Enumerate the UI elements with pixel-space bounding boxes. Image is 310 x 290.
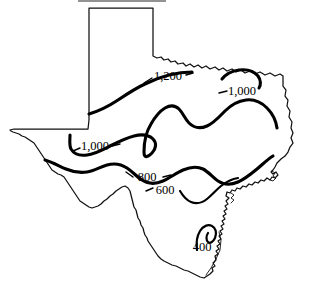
contour-map-figure: 1,200 1,000 1,000 800 600 400 <box>0 0 310 290</box>
cropped-caption-artifact <box>78 0 166 2</box>
texas-contour-map-svg: 1,200 1,000 1,000 800 600 400 <box>0 0 310 290</box>
contour-label-400: 400 <box>193 240 212 254</box>
contour-label-1000-west: 1,000 <box>81 139 109 153</box>
contour-label-800: 800 <box>138 170 157 184</box>
contour-label-1200: 1,200 <box>154 69 182 83</box>
texas-state-outline <box>10 8 293 278</box>
contour-label-1000-east: 1,000 <box>228 84 256 98</box>
contour-label-600: 600 <box>156 183 175 197</box>
coastal-bay-detail <box>231 193 234 203</box>
